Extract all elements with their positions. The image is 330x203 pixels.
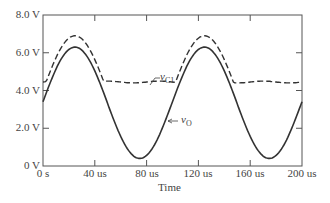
vo-annotation: vO [181,113,192,128]
y-tick-label: 4.0 V [2,84,40,96]
y-tick-label: 2.0 V [2,121,40,133]
x-tick-label: 200 us [280,167,324,179]
x-tick-label: 40 us [73,167,117,179]
y-tick-label: 8.0 V [2,8,40,20]
y-ticks [43,53,302,129]
x-ticks [95,15,250,166]
x-axis-title: Time [158,181,181,193]
x-tick-label: 120 us [176,167,220,179]
x-tick-label: 160 us [228,167,272,179]
vc1-annotation: vC1 [160,70,174,85]
x-tick-label: 80 us [125,167,169,179]
plot-frame [43,15,302,166]
y-tick-label: 6.0 V [2,46,40,58]
x-tick-label: 0 s [21,167,65,179]
series-vo-line [43,47,302,158]
